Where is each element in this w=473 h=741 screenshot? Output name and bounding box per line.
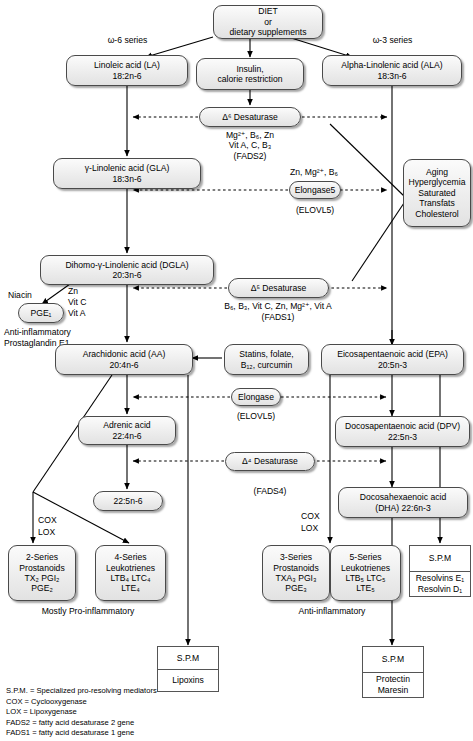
prostanoids2-line-0: 2-Series — [26, 552, 58, 562]
spm-lipoxins-body-cell: Lipoxins — [158, 669, 218, 692]
enzyme-d6-cofactor-0: Mg²⁺, B₆, Zn — [200, 130, 300, 140]
enzyme-delta5-desaturase[interactable]: Δ⁵ Desaturase — [228, 278, 329, 298]
node-ala-line-1: 18:3n-6 — [377, 71, 406, 81]
node-statins-folate[interactable]: Statins, folate, B₁₂, curcumin — [224, 344, 309, 375]
node-docosapentaenoic-acid[interactable]: Docosapentaenoic acid (DPV) 22:5n-3 — [335, 416, 470, 447]
label-omega3-series: ω-3 series — [345, 35, 440, 45]
legend: S.P.M. = Specialized pro-resolving media… — [6, 686, 157, 739]
node-4-series-leukotrienes[interactable]: 4-Series Leukotrienes LTB₄ LTC₄ LTE₄ — [95, 545, 166, 601]
node-statins-line-1: B₁₂, curcumin — [241, 360, 293, 370]
label-lox-right: LOX — [301, 523, 331, 533]
prostanoids2-line-1: Prostanoids — [19, 563, 64, 573]
spm-protectin-body-1: Maresin — [378, 685, 409, 695]
spm-protectin-header-cell: S.P.M — [363, 647, 423, 672]
node-diet-line-2: dietary supplements — [230, 27, 307, 37]
spm-resolvins-body-1: Resolvin D₁ — [418, 584, 462, 594]
spm-protectin-body-cell: Protectin Maresin — [363, 672, 423, 698]
label-lox-left: LOX — [38, 527, 68, 537]
box-spm-protectin[interactable]: S.P.M Protectin Maresin — [362, 646, 424, 698]
node-diet-line-0: DIET — [258, 6, 278, 16]
spm-resolvins-body-0: Resolvins E₁ — [416, 573, 464, 583]
node-aging-line-0: Aging — [426, 167, 448, 177]
enzyme-d4-gene: (FADS4) — [225, 486, 315, 496]
box-spm-resolvins[interactable]: S.P.M Resolvins E₁ Resolvin D₁ — [409, 545, 471, 597]
label-cox-right: COX — [301, 511, 331, 521]
spm-lipoxins-header-cell: S.P.M — [158, 647, 218, 669]
node-diet[interactable]: DIET or dietary supplements — [213, 5, 323, 39]
node-3-series-prostanoids[interactable]: 3-Series Prostanoids TXA₃ PGI₃ PGE₃ — [262, 545, 330, 601]
node-aging-line-4: Cholesterol — [415, 209, 458, 219]
enzyme-elongase-mid[interactable]: Elongase — [231, 388, 281, 406]
leukotrienes5-line-0: 5-Series — [350, 552, 382, 562]
node-eicosapentaenoic-acid[interactable]: Eicosapentaenoic acid (EPA) 20:5n-3 — [321, 344, 464, 375]
enzyme-delta6-desaturase[interactable]: Δ⁶ Desaturase — [199, 107, 301, 127]
node-gla-line-0: γ-Linolenic acid (GLA) — [85, 163, 170, 173]
legend-line-4: FADS1 = fatty acid desaturase 1 gene — [6, 728, 157, 739]
pge1-caption-0: Anti-inflammatory — [4, 327, 114, 337]
label-anti-inflammatory: Anti-inflammatory — [262, 606, 402, 616]
enzyme-elongase-mid-label: Elongase — [238, 392, 274, 402]
node-insulin-line-0: Insulin, — [236, 64, 263, 74]
node-gamma-linolenic-acid[interactable]: γ-Linolenic acid (GLA) 18:3n-6 — [53, 158, 201, 189]
leukotrienes4-line-0: 4-Series — [115, 552, 147, 562]
node-aa-line-1: 20:4n-6 — [109, 360, 138, 370]
node-2-series-prostanoids[interactable]: 2-Series Prostanoids TX₂ PGI₂ PGE₂ — [8, 545, 76, 601]
node-aa-line-0: Arachidonic acid (AA) — [83, 349, 166, 359]
prostanoids2-line-2: TX₂ PGI₂ — [25, 573, 60, 583]
spm-lipoxins-header: S.P.M — [177, 653, 199, 663]
node-docosahexaenoic-acid[interactable]: Docosahexaenoic acid (DHA) 22:6n-3 — [338, 487, 468, 518]
node-dpa-line-1: 22:5n-3 — [388, 432, 417, 442]
label-mostly-pro-inflammatory: Mostly Pro-inflammatory — [12, 606, 164, 616]
node-diet-line-1: or — [264, 17, 272, 27]
enzyme-elongase5-top[interactable]: Elongase5 — [289, 181, 341, 199]
enzyme-delta4-desaturase[interactable]: Δ⁴ Desaturase — [225, 452, 315, 471]
enzyme-elongase5-gene: (ELOVL5) — [255, 205, 375, 215]
legend-line-3: FADS2 = fatty acid desaturase 2 gene — [6, 718, 157, 729]
node-epa-line-1: 20:5n-3 — [378, 360, 407, 370]
node-ala-line-0: Alpha-Linolenic acid (ALA) — [341, 60, 442, 70]
enzyme-d6-label: Δ⁶ Desaturase — [222, 112, 278, 122]
prostanoids3-line-2: TXA₃ PGI₃ — [276, 573, 317, 583]
label-dgla-cofactor-1: Vit C — [68, 297, 108, 307]
spm-resolvins-header-cell: S.P.M — [410, 546, 470, 571]
node-alpha-linolenic-acid[interactable]: Alpha-Linolenic acid (ALA) 18:3n-6 — [322, 55, 462, 86]
leukotrienes5-line-2: LTB₅ LTC₅ — [345, 573, 385, 583]
spm-protectin-header: S.P.M — [382, 654, 404, 664]
node-dgla-line-1: 20:3n-6 — [112, 270, 141, 280]
leukotrienes4-line-2: LTB₄ LTC₄ — [110, 573, 150, 583]
node-arachidonic-acid[interactable]: Arachidonic acid (AA) 20:4n-6 — [55, 344, 193, 375]
prostanoids3-line-0: 3-Series — [280, 552, 312, 562]
label-niacin: Niacin — [8, 290, 56, 300]
box-spm-lipoxins[interactable]: S.P.M Lipoxins — [157, 646, 219, 692]
leukotrienes5-line-1: Leukotrienes — [341, 563, 390, 573]
enzyme-d6-cofactor-1: Vit A, C, B₃ — [200, 140, 300, 150]
enzyme-d5-label: Δ⁵ Desaturase — [251, 283, 307, 293]
node-dha-line-1: (DHA) 22:6n-3 — [375, 503, 430, 513]
enzyme-d4-label: Δ⁴ Desaturase — [242, 456, 298, 466]
leukotrienes4-line-3: LTE₄ — [121, 583, 140, 593]
pathway-diagram: DIET or dietary supplements ω-6 series ω… — [0, 0, 473, 741]
node-adrenic-line-0: Adrenic acid — [103, 420, 150, 430]
spm-protectin-body-0: Protectin — [376, 674, 410, 684]
leukotrienes4-line-1: Leukotrienes — [106, 563, 155, 573]
label-dgla-cofactor-2: Vit A — [68, 308, 108, 318]
prostanoids3-line-3: PGE₃ — [285, 583, 307, 593]
leukotrienes5-line-3: LTE₅ — [356, 583, 375, 593]
label-dgla-cofactor-0: Zn — [68, 286, 108, 296]
node-statins-line-0: Statins, folate, — [239, 349, 293, 359]
node-gla-line-1: 18:3n-6 — [112, 174, 141, 184]
node-dpa-line-0: Docosapentaenoic acid (DPV) — [345, 421, 460, 431]
node-5-series-leukotrienes[interactable]: 5-Series Leukotrienes LTB₅ LTC₅ LTE₅ — [330, 545, 401, 601]
node-insulin-calorie-restriction[interactable]: Insulin, calorie restriction — [196, 58, 304, 90]
spm-lipoxins-body-0: Lipoxins — [172, 675, 204, 685]
node-22-5n-6[interactable]: 22:5n-6 — [93, 491, 163, 511]
node-linoleic-acid[interactable]: Linoleic acid (LA) 18:2n-6 — [66, 55, 188, 86]
node-epa-line-0: Eicosapentaenoic acid (EPA) — [337, 349, 448, 359]
node-adrenic-acid[interactable]: Adrenic acid 22:4n-6 — [78, 416, 176, 445]
node-pge1-label: PGE₁ — [30, 308, 51, 318]
node-aging-factors[interactable]: Aging Hyperglycemia Saturated Transfats … — [403, 159, 471, 227]
label-cox-left: COX — [38, 515, 68, 525]
node-dihomo-gamma-linolenic-acid[interactable]: Dihomo-γ-Linolenic acid (DGLA) 20:3n-6 — [40, 255, 214, 285]
legend-line-1: COX = Cyclooxygenase — [6, 697, 157, 708]
node-pge1[interactable]: PGE₁ — [18, 303, 64, 323]
